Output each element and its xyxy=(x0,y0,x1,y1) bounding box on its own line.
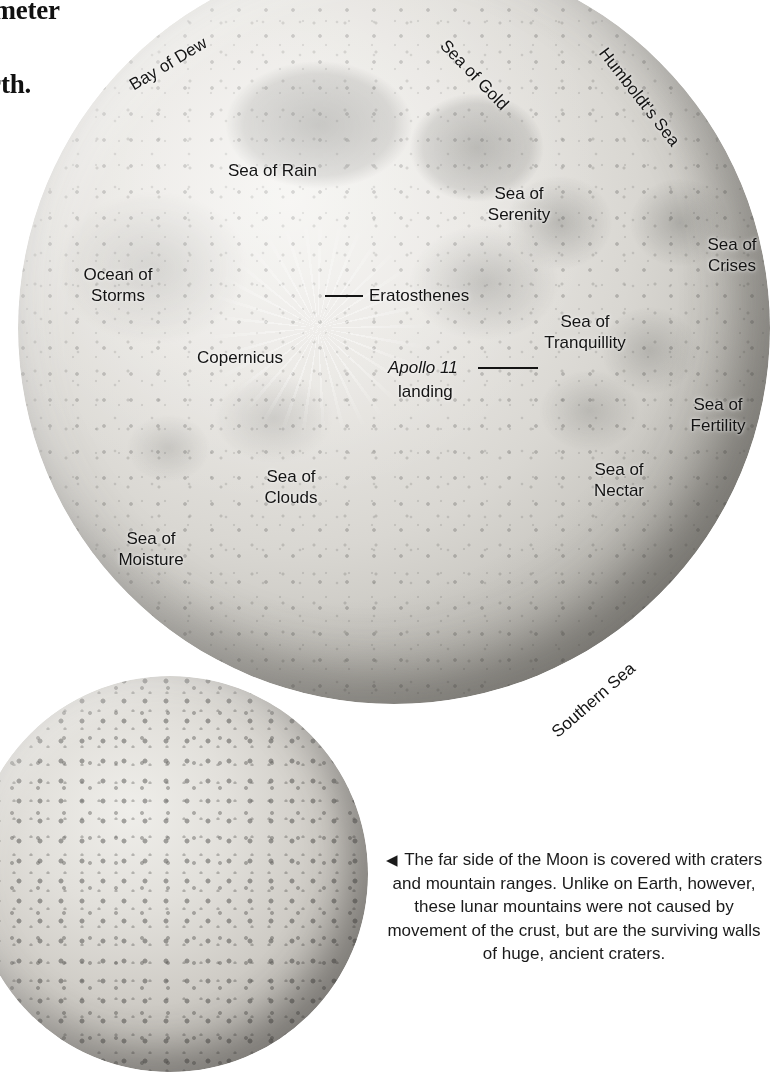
map-label-sea-of-serenity: Sea ofSerenity xyxy=(473,183,565,225)
map-label-copernicus: Copernicus xyxy=(197,348,283,368)
eratosthenes-leader xyxy=(325,295,363,297)
caption-text: The far side of the Moon is covered with… xyxy=(387,850,762,963)
caption-arrow-icon: ◀ xyxy=(386,851,400,868)
map-label-sea-of-tranquillity: Sea ofTranquillity xyxy=(539,311,631,353)
map-label-sea-of-fertility: Sea ofFertility xyxy=(672,394,764,436)
map-label-sea-of-crises: Sea ofCrises xyxy=(686,234,770,276)
map-label-apollo-11: Apollo 11 xyxy=(388,358,458,378)
map-label-sea-of-nectar: Sea ofNectar xyxy=(573,459,665,501)
far-side-moon-sphere xyxy=(0,676,368,1072)
map-label-apollo-11-landing: landing xyxy=(398,382,453,402)
map-label-eratosthenes: Eratosthenes xyxy=(369,286,469,306)
headline-line-1: diameter xyxy=(0,0,138,29)
figure-caption: ◀ The far side of the Moon is covered wi… xyxy=(383,848,765,966)
map-label-sea-of-rain: Sea of Rain xyxy=(228,161,317,181)
map-label-southern-sea: Southern Sea xyxy=(548,659,640,742)
map-label-ocean-of-storms: Ocean ofStorms xyxy=(72,264,164,306)
apollo-11-leader xyxy=(478,367,538,369)
map-label-sea-of-moisture: Sea ofMoisture xyxy=(105,528,197,570)
headline-line-2: age xyxy=(0,29,138,66)
far-side-shading xyxy=(0,676,368,1072)
map-label-sea-of-clouds: Sea ofClouds xyxy=(245,466,337,508)
